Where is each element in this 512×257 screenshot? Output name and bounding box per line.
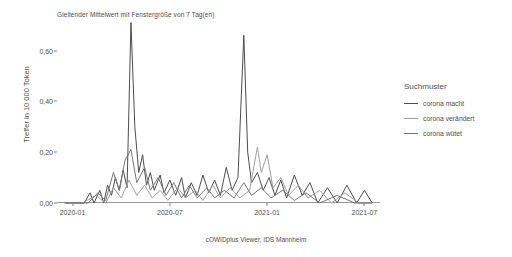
- y-tick-mark: [54, 101, 57, 102]
- legend-swatch-icon: [404, 133, 418, 134]
- legend-item-label: corona verändert: [423, 115, 474, 122]
- chart-page: Gleitender Mittelwert mit Fenstergröße v…: [0, 0, 512, 257]
- y-tick-mark: [54, 152, 57, 153]
- x-tick-label: 2021-07: [352, 209, 378, 216]
- x-tick-label: 2021-01: [254, 209, 280, 216]
- legend-swatch-icon: [404, 118, 418, 119]
- x-tick-label: 2020-07: [157, 209, 183, 216]
- legend-title: Suchmuster: [404, 82, 512, 91]
- series-line: [65, 23, 372, 203]
- series-lines: [57, 20, 380, 203]
- y-tick-label: 0,60: [39, 47, 53, 54]
- x-tick-mark: [267, 203, 268, 206]
- legend-item[interactable]: corona macht: [404, 100, 512, 107]
- y-tick-label: 0,20: [39, 149, 53, 156]
- y-tick-label: 0,40: [39, 98, 53, 105]
- legend-item[interactable]: corona verändert: [404, 115, 512, 122]
- plot-area: 0,000,200,400,602020-012020-072021-01202…: [57, 20, 380, 203]
- legend-item-label: corona macht: [423, 100, 464, 107]
- y-tick-mark: [54, 203, 57, 204]
- chart-title: Gleitender Mittelwert mit Fenstergröße v…: [57, 11, 215, 18]
- y-tick-label: 0,00: [39, 200, 53, 207]
- y-axis-title: Treffer in 10 000 Token: [22, 35, 31, 175]
- legend-items: corona machtcorona verändertcorona wütet: [404, 100, 512, 137]
- legend: Suchmuster corona machtcorona verändertc…: [404, 82, 512, 145]
- x-tick-mark: [169, 203, 170, 206]
- chart-caption: cOWIDplus Viewer, IDS Mannheim: [0, 236, 512, 243]
- legend-item-label: corona wütet: [423, 130, 462, 137]
- x-tick-mark: [72, 203, 73, 206]
- y-tick-mark: [54, 50, 57, 51]
- x-tick-label: 2020-01: [60, 209, 86, 216]
- legend-swatch-icon: [404, 103, 418, 104]
- legend-item[interactable]: corona wütet: [404, 130, 512, 137]
- x-tick-mark: [364, 203, 365, 206]
